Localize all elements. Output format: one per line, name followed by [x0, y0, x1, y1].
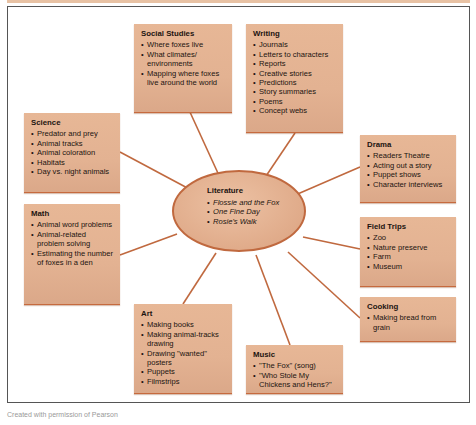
branch-title: Social Studies: [141, 29, 226, 38]
list-item: Drawing "wanted" posters: [141, 349, 226, 368]
branch-writing: Writing Journals Letters to characters R…: [246, 24, 343, 133]
branch-title: Drama: [367, 140, 450, 149]
branch-title: Field Trips: [367, 222, 450, 231]
branch-social-studies: Social Studies Where foxes live What cli…: [134, 24, 232, 113]
list-item: Animal word problems: [31, 220, 114, 229]
list-item: Habitats: [31, 158, 114, 167]
list-item: Letters to characters: [253, 50, 337, 59]
branch-title: Music: [253, 350, 337, 359]
list-item: Character interviews: [367, 180, 450, 189]
connector-art: [183, 253, 216, 304]
connector-science: [120, 152, 193, 191]
branch-title: Cooking: [367, 302, 450, 311]
connector-cooking: [288, 252, 360, 318]
branch-title: Art: [141, 309, 226, 318]
list-item: Puppet shows: [367, 170, 450, 179]
branch-title: Math: [31, 209, 114, 218]
book-title: Rosie's Walk: [207, 217, 279, 227]
list-item: Estimating the number of foxes in a den: [31, 249, 114, 268]
list-item: "Who Stole My Chickens and Hens?": [253, 371, 337, 390]
list-item: What climates/ environments: [141, 50, 226, 69]
list-item: Day vs. night animals: [31, 167, 114, 176]
center-node-literature: Literature Flossie and the Fox One Fine …: [172, 170, 306, 252]
list-item: Story summaries: [253, 87, 337, 96]
list-item: Mapping where foxes live around the worl…: [141, 69, 226, 88]
list-item: Animal-related problem solving: [31, 230, 114, 249]
connector-math: [120, 234, 177, 255]
list-item: Concept webs: [253, 106, 337, 115]
list-item: Predator and prey: [31, 129, 114, 138]
list-item: Creative stories: [253, 69, 337, 78]
list-item: Readers Theatre: [367, 151, 450, 160]
branch-title: Writing: [253, 29, 337, 38]
branch-cooking: Cooking Making bread from grain: [360, 297, 456, 342]
branch-music: Music "The Fox" (song) "Who Stole My Chi…: [246, 345, 343, 394]
list-item: Nature preserve: [367, 243, 450, 252]
list-item: Farm: [367, 252, 450, 261]
branch-field-trips: Field Trips Zoo Nature preserve Farm Mus…: [360, 217, 456, 287]
book-title: One Fine Day: [207, 207, 279, 217]
list-item: Poems: [253, 97, 337, 106]
branch-art: Art Making books Making animal-tracks dr…: [134, 304, 232, 394]
list-item: Journals: [253, 40, 337, 49]
connector-field-trips: [303, 237, 360, 249]
list-item: Puppets: [141, 367, 226, 376]
list-item: Where foxes live: [141, 40, 226, 49]
list-item: Museum: [367, 262, 450, 271]
list-item: Animal tracks: [31, 139, 114, 148]
connector-drama: [293, 167, 360, 196]
list-item: Zoo: [367, 233, 450, 242]
list-item: Predictions: [253, 78, 337, 87]
list-item: Reports: [253, 59, 337, 68]
list-item: Acting out a story: [367, 161, 450, 170]
branch-science: Science Predator and prey Animal tracks …: [24, 113, 120, 193]
caption: Created with permission of Pearson: [7, 411, 118, 418]
connector-music: [256, 255, 290, 345]
list-item: Making books: [141, 320, 226, 329]
list-item: Making animal-tracks drawing: [141, 330, 226, 349]
list-item: "The Fox" (song): [253, 361, 337, 370]
list-item: Filmstrips: [141, 377, 226, 386]
branch-drama: Drama Readers Theatre Acting out a story…: [360, 135, 456, 203]
list-item: Making bread from grain: [367, 313, 450, 332]
book-title: Flossie and the Fox: [207, 198, 279, 208]
list-item: Animal coloration: [31, 148, 114, 157]
branch-title: Science: [31, 118, 114, 127]
center-title: Literature: [207, 186, 279, 196]
branch-math: Math Animal word problems Animal-related…: [24, 204, 120, 305]
